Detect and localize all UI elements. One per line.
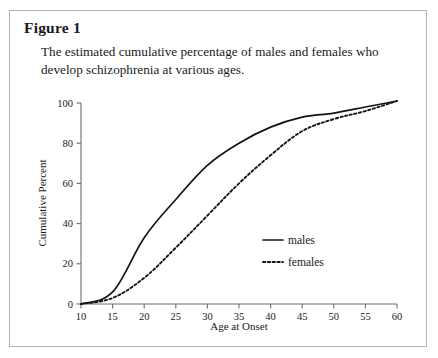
x-tick-label: 25 — [171, 311, 182, 322]
x-tick-label: 50 — [329, 311, 340, 322]
legend-label-males: males — [288, 234, 315, 246]
y-tick-label: 80 — [63, 138, 74, 149]
y-axis: 020406080100 — [57, 98, 81, 310]
x-tick-label: 15 — [107, 311, 118, 322]
y-tick-label: 0 — [68, 299, 73, 310]
chart-legend: males females — [263, 234, 324, 268]
series-line-males — [81, 101, 397, 304]
series-line-females — [81, 101, 397, 304]
y-tick-label: 100 — [57, 98, 73, 109]
chart-plot-area: 020406080100 1015202530354045505560 Age … — [10, 11, 428, 348]
x-tick-label: 20 — [139, 311, 150, 322]
legend-label-females: females — [288, 256, 324, 268]
y-tick-label: 60 — [63, 178, 74, 189]
figure-frame: Figure 1 The estimated cumulative percen… — [9, 10, 427, 347]
y-axis-title: Cumulative Percent — [36, 159, 48, 246]
x-axis-title: Age at Onset — [210, 320, 267, 332]
x-tick-label: 60 — [392, 311, 403, 322]
x-tick-label: 55 — [360, 311, 371, 322]
y-axis-ticks: 020406080100 — [57, 98, 81, 310]
x-tick-label: 10 — [76, 311, 87, 322]
y-tick-label: 20 — [63, 258, 74, 269]
y-tick-label: 40 — [63, 218, 74, 229]
x-tick-label: 45 — [297, 311, 308, 322]
line-chart-svg: 020406080100 1015202530354045505560 Age … — [10, 11, 428, 348]
